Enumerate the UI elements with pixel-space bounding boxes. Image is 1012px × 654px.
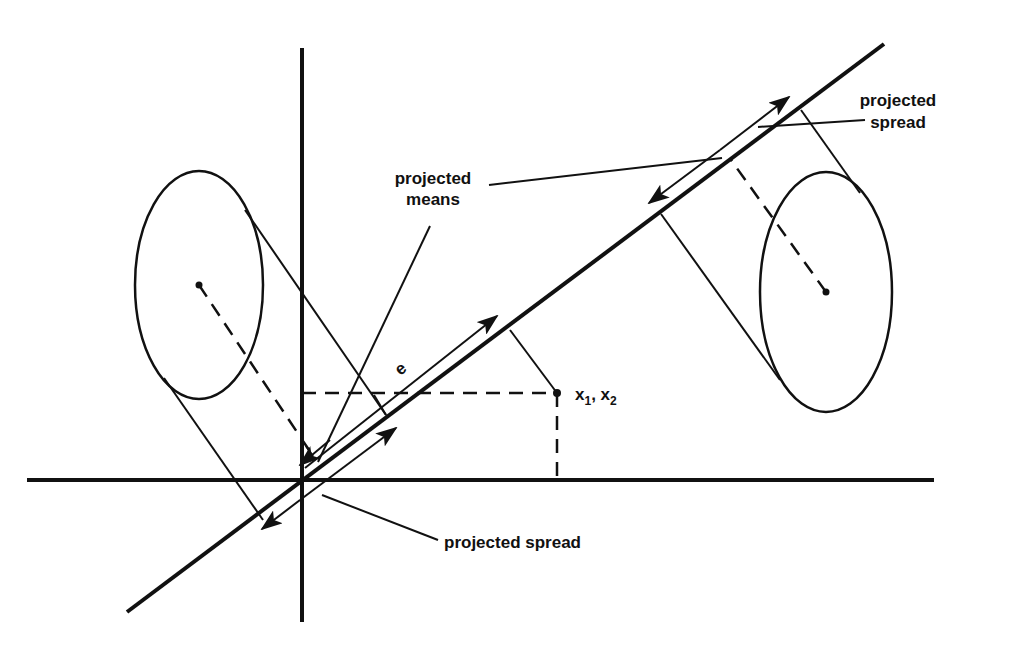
right-ellipse-group bbox=[661, 110, 892, 412]
label-projected-spread-bottom: projected spread bbox=[444, 533, 581, 552]
bottom-spread-arrow-up bbox=[300, 428, 396, 500]
label-projected-means-2: means bbox=[406, 190, 460, 209]
right-mean-projection bbox=[731, 160, 826, 292]
label-point: x1, x2 bbox=[575, 385, 617, 408]
point-projection bbox=[510, 330, 557, 393]
label-projected-means-1: projected bbox=[395, 169, 472, 188]
point-group bbox=[302, 330, 561, 480]
label-projected-spread-top-2: spread bbox=[870, 113, 926, 132]
left-tangent-lower bbox=[164, 378, 263, 520]
left-mean-projection bbox=[199, 285, 313, 456]
left-ellipse-group bbox=[135, 171, 386, 520]
bottom-spread-leader bbox=[322, 495, 438, 540]
label-projected-spread-top-1: projected bbox=[860, 91, 937, 110]
label-vector-e: e bbox=[391, 358, 410, 379]
point-dot bbox=[553, 389, 561, 397]
means-leader-right bbox=[489, 158, 722, 185]
right-tangent-lower bbox=[661, 214, 780, 380]
projection-diagram: projected means projected spread project… bbox=[0, 0, 1012, 654]
projection-line bbox=[127, 44, 884, 612]
